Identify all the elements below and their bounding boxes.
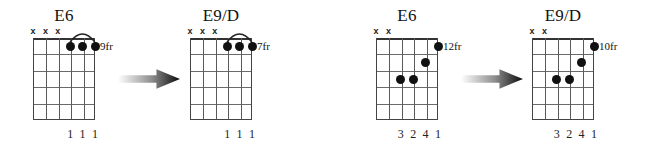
fret-line [34,54,94,55]
muted-strings-row: xx [524,26,649,37]
finger-dot [590,42,599,51]
fret-position-label: 10fr [599,40,617,52]
fret-position-label: 7fr [257,40,270,52]
fret-line [377,104,437,105]
finger-number: 2 [408,128,418,141]
nut-line [191,38,251,40]
finger-dot [552,75,561,84]
muted-string-marker: x [198,26,207,36]
fret-position-label: 12fr [443,40,461,52]
finger-number: 3 [396,128,406,141]
finger-dot [223,42,232,51]
muted-string-marker: x [528,26,537,36]
fret-line [533,87,593,88]
string-line [59,38,60,119]
muted-string-marker: x [210,26,219,36]
string-line [203,38,204,119]
finger-number: 1 [90,128,100,141]
finger-number: 1 [235,128,245,141]
fret-line [191,71,251,72]
chord-name: E6 [25,6,103,25]
muted-string-marker: x [540,26,549,36]
transition-arrow-icon [461,68,523,90]
string-line [216,38,217,119]
muted-strings-row: xxx [182,26,307,37]
fret-line [533,71,593,72]
finger-dot [235,42,244,51]
finger-dot [409,75,418,84]
muted-strings-row: xx [368,26,493,37]
fret-line [34,104,94,105]
fret-line [34,87,94,88]
fret-line [533,104,593,105]
finger-dot [66,42,75,51]
string-line [389,38,390,119]
transition-arrow-icon [118,68,180,90]
finger-dot [396,75,405,84]
nut-line [533,38,593,40]
fretboard-grid [33,38,95,120]
finger-number: 1 [65,128,75,141]
finger-dot [434,42,443,51]
fret-line [533,54,593,55]
string-line [583,38,584,119]
muted-string-marker: x [186,26,195,36]
muted-string-marker: x [41,26,50,36]
fretboard-grid [532,38,594,120]
finger-number: 4 [421,128,431,141]
muted-strings-row: xxx [25,26,150,37]
fret-line [377,54,437,55]
muted-string-marker: x [29,26,38,36]
finger-dot [91,42,100,51]
chord-diagram: E9/Dxxx7fr111 [182,0,307,145]
fret-line [34,71,94,72]
muted-string-marker: x [384,26,393,36]
finger-number: 1 [589,128,599,141]
string-line [46,38,47,119]
muted-string-marker: x [372,26,381,36]
fret-line [377,87,437,88]
nut-line [34,38,94,40]
finger-number: 1 [247,128,257,141]
fret-line [191,87,251,88]
string-line [545,38,546,119]
chord-name: E6 [368,6,446,25]
finger-dot [248,42,257,51]
finger-number: 1 [433,128,443,141]
muted-string-marker: x [53,26,62,36]
fret-line [191,104,251,105]
fretboard-grid [376,38,438,120]
finger-number: 4 [577,128,587,141]
chord-name: E9/D [182,6,260,25]
finger-dot [78,42,87,51]
fret-line [377,71,437,72]
finger-number: 2 [564,128,574,141]
chord-chart-figure: E6xxx9fr111E9/Dxxx7fr111E6xx12fr3241E9/D… [0,0,650,145]
finger-number: 1 [222,128,232,141]
finger-number: 3 [552,128,562,141]
string-line [427,38,428,119]
fret-position-label: 9fr [100,40,113,52]
nut-line [377,38,437,40]
finger-dot [565,75,574,84]
chord-diagram: E9/Dxx10fr3241 [524,0,649,145]
fretboard-grid [190,38,252,120]
finger-number: 1 [78,128,88,141]
fret-line [191,54,251,55]
chord-name: E9/D [524,6,602,25]
